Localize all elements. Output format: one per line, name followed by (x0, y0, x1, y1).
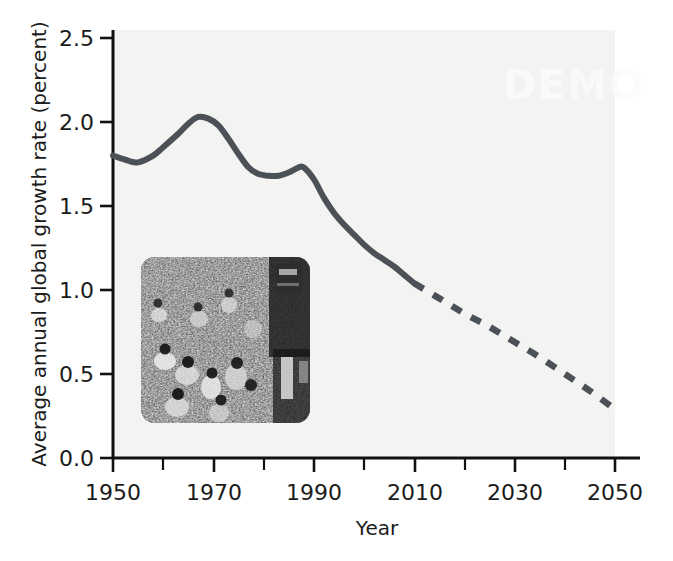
x-axis-title: Year (355, 516, 399, 540)
x-tick-label-1990: 1990 (286, 480, 342, 505)
y-axis (100, 30, 113, 458)
y-tick-label-0.5: 0.5 (59, 362, 94, 387)
y-tick-label-2.5: 2.5 (59, 26, 94, 51)
y-tick-label-1.0: 1.0 (59, 278, 94, 303)
x-tick-label-2010: 2010 (387, 480, 443, 505)
x-axis (113, 458, 640, 472)
series-projected-line (414, 283, 615, 409)
x-tick-label-2050: 2050 (587, 480, 643, 505)
y-tick-label-2.0: 2.0 (59, 110, 94, 135)
x-tick-label-2030: 2030 (487, 480, 543, 505)
x-tick-label-1970: 1970 (186, 480, 242, 505)
x-tick-label-1950: 1950 (85, 480, 141, 505)
y-tick-label-0.0: 0.0 (59, 446, 94, 471)
series-historical-line (113, 117, 414, 284)
y-axis-title: Average annual global growth rate (perce… (27, 21, 51, 466)
y-tick-label-1.5: 1.5 (59, 194, 94, 219)
chart-svg: 2.5 2.0 1.5 1.0 0.5 0.0 1950 1970 1990 2… (0, 0, 673, 561)
chart-figure: DEMO (0, 0, 673, 561)
